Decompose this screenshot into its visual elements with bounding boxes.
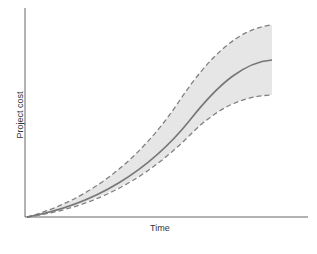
chart [0,0,317,254]
uncertainty-band [27,25,272,217]
x-axis-label: Time [150,223,170,233]
y-axis-label: Project cost [15,85,25,145]
